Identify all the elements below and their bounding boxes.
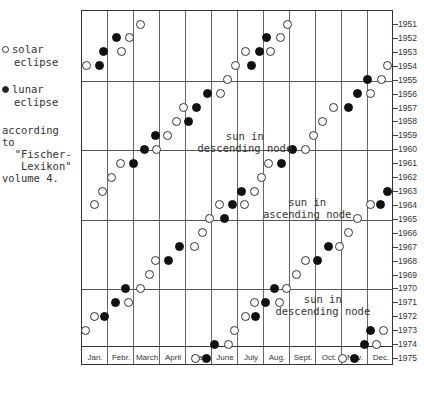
solar-eclipse-point <box>125 33 134 42</box>
month-tick-label: April <box>160 353 186 362</box>
solar-eclipse-point <box>90 200 99 209</box>
lunar-eclipse-point <box>237 187 246 196</box>
lunar-eclipse-point <box>376 200 385 209</box>
solar-eclipse-point <box>136 20 145 29</box>
year-tick-label: 1966 <box>398 228 417 238</box>
legend: solar eclipse lunar eclipse <box>2 43 80 123</box>
solar-eclipse-point <box>163 131 172 140</box>
lunar-eclipse-point <box>175 242 184 251</box>
solar-eclipse-point <box>301 256 310 265</box>
solar-eclipse-point <box>366 89 375 98</box>
solar-eclipse-point <box>124 298 133 307</box>
solar-eclipse-point <box>383 61 392 70</box>
solar-eclipse-point <box>372 340 381 349</box>
lunar-eclipse-point <box>220 214 229 223</box>
legend-lunar-label-line2: eclipse <box>2 96 80 109</box>
year-tick-label: 1965 <box>398 214 417 224</box>
legend-solar-label-line2: eclipse <box>2 56 80 69</box>
month-gridline <box>159 11 160 364</box>
year-tick-label: 1960 <box>398 144 417 154</box>
month-gridline <box>185 11 186 364</box>
year-gridline <box>82 81 392 82</box>
solar-eclipse-point <box>117 47 126 56</box>
solar-eclipse-point <box>191 354 200 363</box>
solar-eclipse-point <box>283 20 292 29</box>
solar-eclipse-point <box>292 270 301 279</box>
year-tick-label: 1974 <box>398 339 417 349</box>
solar-eclipse-point <box>250 187 259 196</box>
year-tick-label: 1968 <box>398 256 417 266</box>
month-tick-label: June <box>212 353 238 362</box>
solar-eclipse-point <box>215 200 224 209</box>
year-tick-label: 1972 <box>398 311 417 321</box>
solar-eclipse-point <box>190 242 199 251</box>
year-tick-label: 1975 <box>398 353 417 363</box>
filled-circle-icon <box>2 86 9 93</box>
year-tick-label: 1971 <box>398 297 417 307</box>
lunar-eclipse-point <box>151 131 160 140</box>
month-tick-label: Dec. <box>368 353 394 362</box>
year-tick-label: 1953 <box>398 47 417 57</box>
month-tick-label: Aug. <box>264 353 290 362</box>
month-tick-label: Sept. <box>290 353 316 362</box>
lunar-eclipse-point <box>247 61 256 70</box>
lunar-eclipse-point <box>111 298 120 307</box>
year-tick-label: 1954 <box>398 61 417 71</box>
lunar-eclipse-point <box>350 354 359 363</box>
year-tick-label: 1955 <box>398 75 417 85</box>
year-tick-label: 1962 <box>398 172 417 182</box>
lunar-eclipse-point <box>344 103 353 112</box>
solar-eclipse-point <box>318 117 327 126</box>
year-tick-label: 1951 <box>398 19 417 29</box>
solar-eclipse-point <box>90 312 99 321</box>
solar-eclipse-point <box>338 354 347 363</box>
year-tick-label: 1958 <box>398 116 417 126</box>
month-gridline <box>133 11 134 364</box>
lunar-eclipse-point <box>228 200 237 209</box>
solar-eclipse-point <box>116 159 125 168</box>
solar-eclipse-point <box>98 187 107 196</box>
legend-item-lunar: lunar eclipse <box>2 83 80 109</box>
solar-eclipse-point <box>240 200 249 209</box>
month-gridline <box>107 11 108 364</box>
lunar-eclipse-point <box>203 89 212 98</box>
open-circle-icon <box>2 46 9 53</box>
year-tick-label: 1964 <box>398 200 417 210</box>
solar-eclipse-point <box>241 47 250 56</box>
year-tick-label: 1970 <box>398 283 417 293</box>
year-gridline <box>82 220 392 221</box>
year-tick-label: 1967 <box>398 242 417 252</box>
year-tick-label: 1959 <box>398 130 417 140</box>
solar-eclipse-point <box>266 47 275 56</box>
lunar-eclipse-point <box>324 242 333 251</box>
legend-solar-label: solar <box>12 43 44 55</box>
lunar-eclipse-point <box>353 89 362 98</box>
legend-item-solar: solar eclipse <box>2 43 80 69</box>
month-tick-label: March <box>134 353 160 362</box>
month-gridline <box>263 11 264 364</box>
year-tick-label: 1957 <box>398 103 417 113</box>
lunar-eclipse-point <box>262 33 271 42</box>
lunar-eclipse-point <box>363 75 372 84</box>
lunar-eclipse-point <box>261 298 270 307</box>
node-annotation: sun in descending node <box>195 130 295 154</box>
lunar-eclipse-point <box>383 187 392 196</box>
lunar-eclipse-point <box>202 354 211 363</box>
solar-eclipse-point <box>241 312 250 321</box>
lunar-eclipse-point <box>129 159 138 168</box>
month-tick-label: Febr. <box>108 353 134 362</box>
year-tick-label: 1952 <box>398 33 417 43</box>
node-annotation: sun in descending node <box>273 293 373 317</box>
node-annotation: sun in ascending node <box>257 196 357 220</box>
year-tick-label: 1956 <box>398 89 417 99</box>
year-tick-label: 1969 <box>398 270 417 280</box>
year-tick-label: 1973 <box>398 325 417 335</box>
lunar-eclipse-point <box>255 47 264 56</box>
solar-eclipse-point <box>377 75 386 84</box>
year-tick-label: 1963 <box>398 186 417 196</box>
legend-lunar-label: lunar <box>12 83 44 95</box>
month-gridline <box>211 11 212 364</box>
solar-eclipse-point <box>136 284 145 293</box>
lunar-eclipse-point <box>313 256 322 265</box>
solar-eclipse-point <box>344 228 353 237</box>
